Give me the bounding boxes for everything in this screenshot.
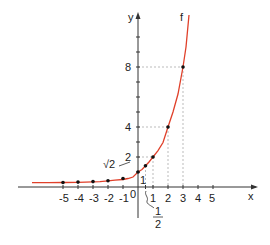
function-label: f bbox=[180, 11, 184, 23]
y-tick-4: 4 bbox=[125, 121, 131, 133]
y-tick-1: 1 bbox=[140, 174, 146, 186]
svg-text:3: 3 bbox=[180, 192, 186, 204]
svg-text:2: 2 bbox=[165, 192, 171, 204]
svg-text:1: 1 bbox=[150, 192, 156, 204]
x-tick-labels: -5 -4 -3 -2 -1 1 2 3 4 5 bbox=[59, 192, 215, 204]
half-numerator: 1 bbox=[155, 205, 161, 217]
svg-text:-4: -4 bbox=[74, 192, 84, 204]
x-axis-arrow-icon bbox=[251, 185, 258, 190]
svg-text:-5: -5 bbox=[59, 192, 69, 204]
y-tick-8: 8 bbox=[125, 61, 131, 73]
y-axis-label: y bbox=[128, 11, 134, 23]
half-denominator: 2 bbox=[155, 218, 161, 230]
svg-text:4: 4 bbox=[195, 192, 201, 204]
data-points bbox=[61, 65, 185, 184]
guide-lines bbox=[138, 67, 183, 187]
svg-text:-1: -1 bbox=[119, 192, 129, 204]
svg-text:-3: -3 bbox=[89, 192, 99, 204]
svg-text:5: 5 bbox=[209, 192, 215, 204]
svg-text:-2: -2 bbox=[104, 192, 114, 204]
exponential-chart: y f x 8 4 2 1 √2 0 -5 -4 -3 -2 -1 1 2 3 … bbox=[0, 0, 270, 245]
y-tick-2: 2 bbox=[125, 151, 131, 163]
x-axis-label: x bbox=[248, 190, 254, 202]
y-axis-arrow-icon bbox=[136, 12, 141, 19]
origin-label: 0 bbox=[130, 188, 136, 200]
sqrt2-label: √2 bbox=[103, 158, 115, 170]
